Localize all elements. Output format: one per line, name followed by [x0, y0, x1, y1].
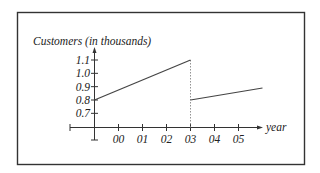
y-tick-label: 0.9 — [76, 81, 91, 93]
x-tick-label: 03 — [185, 133, 197, 145]
chart: Customers (in thousands) year 0.70.80.91… — [0, 0, 320, 173]
x-tick-label: 01 — [137, 133, 149, 145]
x-tick-label: 00 — [113, 133, 125, 145]
y-tick-label: 1.1 — [76, 54, 90, 66]
x-axis-label: year — [265, 121, 287, 134]
y-tick-label: 1.0 — [76, 67, 91, 79]
x-tick-label: 04 — [209, 133, 221, 145]
x-tick-label: 05 — [233, 133, 245, 145]
x-tick-label: 02 — [161, 133, 173, 145]
y-tick-label: 0.7 — [76, 107, 92, 119]
y-axis-label: Customers (in thousands) — [33, 35, 151, 48]
y-tick-label: 0.8 — [76, 94, 91, 106]
